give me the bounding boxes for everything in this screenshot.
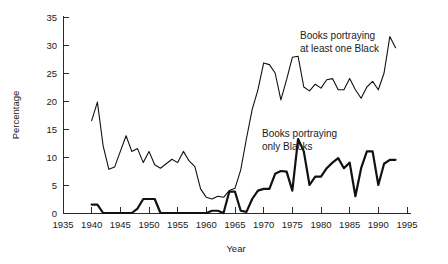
y-tick-label-35: 35 [46,12,57,23]
x-tick-label-1960: 1960 [196,219,217,230]
x-tick-label-1975: 1975 [282,219,303,230]
y-tick-label-20: 20 [46,96,57,107]
series-line-at-least-one-black [92,37,396,199]
annotation-only-blacks-line1: Books portraying [262,128,337,139]
chart-container: 05101520253035 1935194019451950195519601… [0,0,448,264]
x-tick-label-1995: 1995 [396,219,417,230]
y-tick-label-30: 30 [46,40,57,51]
annotation-only-blacks-line2: only Blacks [262,141,313,152]
x-tick-label-1935: 1935 [52,219,73,230]
y-axis-title: Percentage [10,91,21,140]
y-tick-label-10: 10 [46,152,57,163]
series-annotations: Books portraying at least one Black Book… [262,30,380,152]
x-tick-label-1950: 1950 [138,219,159,230]
x-tick-label-1970: 1970 [253,219,274,230]
x-axis: 1935194019451950195519601965197019751980… [52,207,417,230]
annotation-at-least-one-black-line1: Books portraying [300,30,375,41]
y-axis: 05101520253035 [46,12,69,219]
series-line-only-blacks [92,139,396,213]
x-tick-label-1945: 1945 [110,219,131,230]
y-tick-label-15: 15 [46,124,57,135]
y-tick-label-5: 5 [52,180,57,191]
x-tick-label-1955: 1955 [167,219,188,230]
x-axis-title: Year [226,243,245,254]
y-tick-label-0: 0 [52,208,57,219]
x-tick-label-1965: 1965 [224,219,245,230]
line-chart: 05101520253035 1935194019451950195519601… [0,0,448,264]
annotation-at-least-one-black-line2: at least one Black [300,43,380,54]
x-tick-label-1985: 1985 [339,219,360,230]
y-tick-label-25: 25 [46,68,57,79]
x-tick-label-1990: 1990 [368,219,389,230]
series-lines [92,37,396,213]
x-tick-label-1940: 1940 [81,219,102,230]
x-tick-label-1980: 1980 [310,219,331,230]
